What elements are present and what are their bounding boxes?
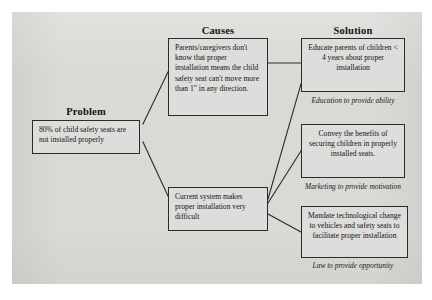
- caption-solution-marketing: Marketing to provide motivation: [296, 182, 410, 191]
- node-solution-law[interactable]: Mandate technological change to vehicles…: [301, 206, 408, 258]
- node-problem[interactable]: 80% of child safety seats are not instal…: [32, 120, 140, 154]
- diagram-page: Problem Causes Solution 80% of child saf…: [0, 0, 432, 300]
- node-cause-knowledge[interactable]: Parents/caregivers don't know that prope…: [168, 38, 268, 116]
- heading-causes: Causes: [168, 25, 268, 36]
- heading-solution: Solution: [301, 25, 405, 36]
- caption-solution-law: Law to provide opportunity: [296, 261, 410, 270]
- node-solution-marketing[interactable]: Convey the benefits of securing children…: [301, 124, 405, 178]
- heading-problem: Problem: [32, 106, 140, 117]
- caption-solution-education: Education to provide ability: [296, 96, 410, 105]
- node-cause-system[interactable]: Current system makes proper installation…: [168, 187, 268, 231]
- node-solution-education[interactable]: Educate parents of children < 4 years ab…: [301, 38, 405, 92]
